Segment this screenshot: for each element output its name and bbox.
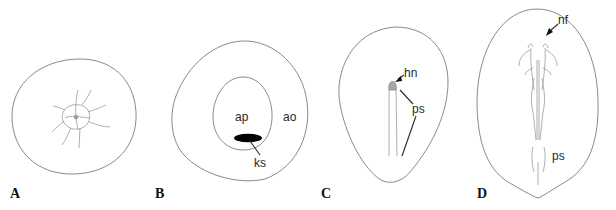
panel-d-outline [477, 9, 598, 198]
panel-letter-c: C [321, 186, 331, 201]
panel-b: ap ao ks [172, 41, 308, 181]
label-ps-d: ps [552, 149, 565, 163]
panel-c-outline [339, 27, 448, 182]
panel-letter-a: A [10, 186, 21, 201]
panel-a-central-knot [52, 90, 110, 148]
panel-d-ps-structure [532, 147, 545, 185]
panel-letter-b: B [155, 186, 164, 201]
panel-c: hn ps [339, 27, 448, 182]
label-ao: ao [283, 110, 297, 124]
label-nf: nf [558, 13, 569, 27]
panel-letter-d: D [477, 186, 487, 201]
panel-b-ks-leader [250, 141, 260, 155]
panel-d: nf ps [477, 9, 598, 198]
panel-b-ks-structure [234, 134, 262, 143]
panel-a [12, 59, 136, 174]
panel-c-hn-arrowhead [395, 76, 402, 82]
label-ps-c: ps [412, 102, 425, 116]
panel-c-ps-leader-lower [402, 116, 416, 156]
panel-c-rod [389, 82, 397, 157]
label-ap: ap [235, 110, 249, 124]
label-hn: hn [404, 66, 417, 80]
label-ks: ks [254, 156, 266, 170]
figure: A ap ao ks B hn ps C [0, 0, 616, 210]
panel-d-nf-structures [519, 44, 557, 140]
